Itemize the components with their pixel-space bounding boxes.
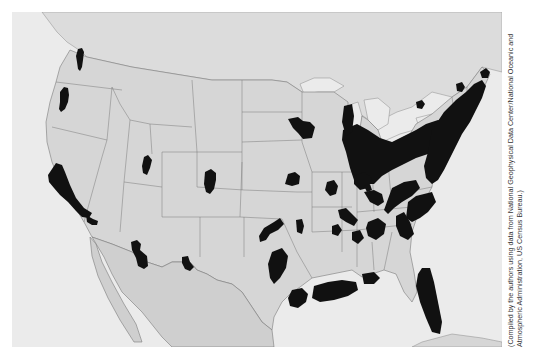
region-florida-peninsula	[416, 268, 442, 334]
source-caption: (Compiled by the authors using data from…	[506, 7, 524, 347]
map-frame	[12, 12, 502, 347]
us-map	[12, 12, 502, 347]
region-gulf-coast-la	[312, 280, 358, 302]
region-florida-panhandle	[362, 272, 380, 284]
cuba	[412, 334, 502, 347]
